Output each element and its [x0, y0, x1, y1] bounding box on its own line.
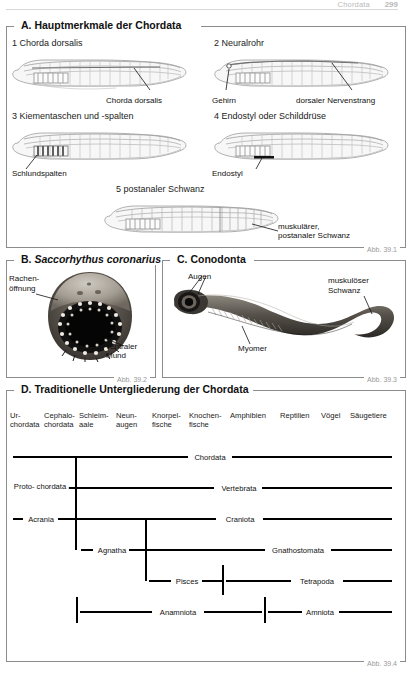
running-head-title: Chordata [338, 0, 370, 9]
taxon-tetrapoda: Tetrapoda [297, 577, 337, 586]
panel-1-caption: 1 Chorda dorsalis [12, 38, 83, 48]
column-header-knochenfische: Knochen- fische [189, 412, 233, 429]
connector-vertical-4 [76, 597, 78, 623]
section-d-border-stub-left [6, 390, 14, 391]
bar-agnatha-right [129, 549, 145, 551]
amphioxus-diagram-2 [212, 52, 392, 98]
column-header-amphibien: Amphibien [230, 412, 282, 421]
taxon-craniota: Craniota [223, 515, 258, 524]
panel-3-caption: 3 Kiementaschen und -spalten [12, 111, 134, 121]
figure-credit-d: Abb. 39.4 [364, 660, 400, 667]
taxon-vertebrata: Vertebrata [218, 484, 259, 493]
section-b: B. Saccorhythus coronarius [6, 260, 156, 378]
taxon-pisces: Pisces [173, 577, 201, 586]
taxon-acrania: Acrania [25, 515, 57, 524]
connector-vertical-3 [222, 565, 224, 595]
taxon-chordata: Chordata [191, 453, 228, 462]
taxon-agnatha: Agnatha [95, 546, 129, 555]
running-head: Chordata 299 [0, 0, 404, 11]
label-oeffnung: öffnung [9, 284, 36, 294]
taxon-anamniota: Anamniota [157, 608, 199, 617]
section-a: A. Hauptmerkmale der Chordata 1 Chorda d… [6, 26, 406, 248]
bar-acrania-right [58, 518, 76, 520]
amphioxus-diagram-5 [102, 198, 302, 244]
column-header-voegel: Vögel [321, 412, 353, 421]
bar-anamniota-right [204, 611, 262, 613]
section-d: D. Traditionelle Untergliederung der Cho… [6, 390, 406, 662]
label-endostyl: Endostyl [212, 169, 243, 179]
taxon-amniota: Amniota [303, 608, 337, 617]
bar-craniota-right [263, 518, 392, 520]
label-myomer: Myomer [238, 344, 267, 354]
label-schwanz: Schwanz [328, 286, 360, 296]
label-chorda-dorsalis: Chorda dorsalis [106, 96, 162, 106]
conodont-illustration [168, 284, 400, 354]
bar-amniota-right [339, 611, 392, 613]
bar-vertebrata-right [262, 487, 392, 489]
bar-amniota-left [268, 611, 302, 613]
label-rachen: Rachen- [9, 274, 39, 284]
panel-5-caption: 5 postanaler Schwanz [116, 184, 205, 194]
bar-vertebrata-left [76, 487, 214, 489]
label-schlundspalten: Schlundspalten [12, 169, 67, 179]
section-c: C. Conodonta [162, 260, 406, 378]
bar-agnatha-left [81, 549, 93, 551]
section-a-border-stub-right [201, 26, 406, 27]
bar-chordata-left [13, 456, 188, 458]
bar-gnathostomata-right [331, 549, 392, 551]
figure-credit-a: Abb. 39.1 [364, 246, 400, 253]
textbook-page: Chordata 299 A. Hauptmerkmale der Chorda… [0, 0, 412, 673]
column-header-knorpelfische: Knorpel- fische [152, 412, 192, 429]
column-header-saeugetiere: Säugetiere [350, 412, 404, 421]
connector-vertical-1 [75, 457, 77, 550]
bar-chordata-right [232, 456, 392, 458]
bar-tetrapoda-left [226, 580, 291, 582]
amphioxus-diagram-3 [10, 125, 190, 171]
figure-credit-c: Abb. 39.3 [364, 376, 400, 383]
bar-pisces-right [202, 580, 222, 582]
bar-gnathostomata-left [146, 549, 265, 551]
section-a-border-stub-left [6, 26, 14, 27]
label-dorsaler-nervenstrang: dorsaler Nervenstrang [296, 96, 375, 106]
figure-credit-b: Abb. 39.2 [114, 376, 150, 383]
section-c-title: C. Conodonta [173, 253, 250, 265]
panel-2-caption: 2 Neuralrohr [214, 38, 264, 48]
section-d-border-stub-right [252, 390, 406, 391]
bar-anamniota-left [80, 611, 152, 613]
label-gehirn: Gehirn [212, 96, 236, 106]
column-header-schleimaale: Schleim- aale [79, 412, 117, 429]
amphioxus-diagram-4 [212, 125, 392, 171]
label-muskuloeser: muskulöser [328, 276, 369, 286]
section-d-border [6, 390, 406, 662]
column-header-neunaugen: Neun- augen [116, 412, 154, 429]
bar-pisces-left [149, 580, 171, 582]
section-c-border-stub-right [254, 260, 406, 261]
panel-4-caption: 4 Endostyl oder Schilddrüse [214, 111, 326, 121]
bar-tetrapoda-right [343, 580, 392, 582]
amphioxus-diagram-1 [10, 52, 190, 98]
taxon-gnathostomata: Gnathostomata [269, 546, 327, 555]
header-divider [6, 9, 398, 10]
taxon-protochordata: Proto- chordata [11, 483, 69, 492]
label-augen: Augen [188, 272, 211, 282]
bar-acrania-left [13, 518, 23, 520]
section-d-title: D. Traditionelle Untergliederung der Cho… [17, 383, 253, 395]
label-mund: Mund [106, 351, 126, 361]
label-postanaler-schwanz: postanaler Schwanz [278, 231, 350, 241]
section-c-border-stub-left [162, 260, 170, 261]
page-number: 299 [385, 0, 398, 9]
connector-vertical-5 [264, 597, 266, 623]
section-a-title: A. Hauptmerkmale der Chordata [17, 19, 185, 31]
